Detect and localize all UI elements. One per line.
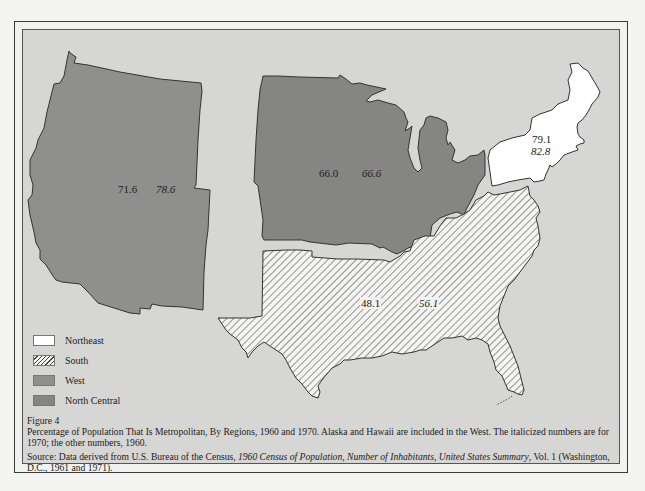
legend-item-north-central: North Central (33, 390, 120, 410)
south-1960-value: 48.1 (360, 297, 381, 309)
source-title-summary: United States Summary (439, 451, 529, 462)
legend-label: North Central (65, 395, 120, 406)
west-1960-value: 71.6 (118, 183, 137, 195)
legend-swatch-gray (33, 375, 55, 386)
figure-description: Percentage of Population That Is Metropo… (27, 426, 617, 448)
legend-item-south: South (33, 350, 120, 370)
north-central-1960-value: 66.0 (319, 167, 338, 179)
south-1970-value: 56.1 (418, 297, 439, 309)
legend-swatch-hatched (33, 355, 55, 366)
legend-swatch-white (33, 335, 55, 346)
legend-swatch-dark-gray (33, 395, 55, 406)
source-prefix: Source: Data derived from U.S. Bureau of… (27, 451, 238, 462)
source-title-inhabitants: Number of Inhabitants (347, 451, 434, 462)
legend-label: West (65, 375, 85, 386)
legend-item-northeast: Northeast (33, 330, 120, 350)
figure-caption: Figure 4 Percentage of Population That I… (27, 415, 617, 473)
north-central-1970-value: 66.6 (362, 167, 381, 179)
legend-label: Northeast (65, 335, 104, 346)
legend-label: South (65, 355, 88, 366)
northeast-1960-value: 79.1 (532, 133, 551, 145)
west-1970-value: 78.6 (156, 183, 175, 195)
northeast-1970-value: 82.8 (531, 145, 550, 157)
legend-item-west: West (33, 370, 120, 390)
region-northeast[interactable] (488, 63, 600, 186)
map-legend: Northeast South West North Central (33, 330, 120, 410)
figure-number: Figure 4 (27, 415, 617, 426)
source-title-census: 1960 Census of Population (238, 451, 342, 462)
florida-keys (496, 396, 512, 405)
figure-source: Source: Data derived from U.S. Bureau of… (27, 451, 617, 473)
